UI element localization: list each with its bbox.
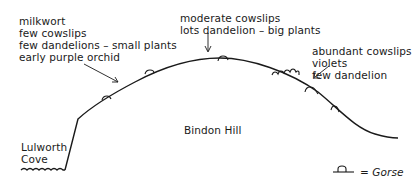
label-line: milkwort xyxy=(19,15,177,27)
hill-name-label: Bindon Hill xyxy=(184,124,242,136)
label-line: few dandelions – small plants xyxy=(19,39,177,51)
label-line: few dandelion xyxy=(312,69,412,81)
arrow-icon xyxy=(84,64,118,82)
gorse-icon xyxy=(102,56,339,112)
legend-gorse-icon xyxy=(333,166,354,172)
water-line xyxy=(21,169,65,171)
label-line: Lulworth xyxy=(21,141,67,153)
right-slope-label: abundant cowslips violets few dandelion xyxy=(312,45,412,81)
label-line: early purple orchid xyxy=(19,51,177,63)
label-line: moderate cowslips xyxy=(180,12,321,24)
label-line: abundant cowslips xyxy=(312,45,412,57)
label-line: Cove xyxy=(21,153,67,165)
label-line: violets xyxy=(312,57,412,69)
label-line: lots dandelion – big plants xyxy=(180,24,321,36)
cove-label: Lulworth Cove xyxy=(21,141,67,165)
summit-label: moderate cowslips lots dandelion – big p… xyxy=(180,12,321,36)
left-slope-label: milkwort few cowslips few dandelions – s… xyxy=(19,15,177,63)
legend-text: = Gorse xyxy=(360,166,404,178)
label-line: few cowslips xyxy=(19,27,177,39)
